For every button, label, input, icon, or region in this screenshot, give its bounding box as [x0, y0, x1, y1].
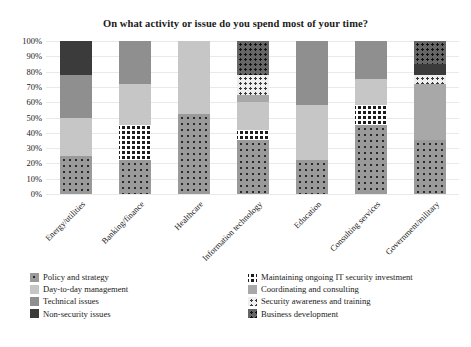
legend-column-right: Maintaining ongoing IT security investme…	[248, 272, 460, 319]
y-axis-tick-label: 20%	[2, 158, 42, 168]
stacked-bar-chart: On what activity or issue do you spend m…	[0, 0, 471, 347]
chart-title: On what activity or issue do you spend m…	[0, 18, 471, 29]
x-axis-label-text: Banking/finance	[99, 199, 146, 246]
legend-label: Day-to-day management	[43, 284, 128, 294]
x-axis-label: Healthcare	[171, 199, 204, 232]
bar-segment-awareness	[414, 75, 446, 84]
legend-item[interactable]: Coordinating and consulting	[248, 284, 460, 294]
x-axis-label-text: Consulting services	[327, 199, 381, 253]
legend-swatch-icon	[30, 273, 39, 282]
bar-segment-technical	[355, 41, 387, 79]
x-axis-label-text: Information technology	[200, 199, 264, 263]
bar-segment-daytoday	[119, 84, 151, 125]
legend-item[interactable]: Maintaining ongoing IT security investme…	[248, 272, 460, 282]
y-axis-tick-label: 70%	[2, 82, 42, 92]
bar-banking-finance	[119, 41, 151, 194]
legend-label: Technical issues	[43, 296, 99, 306]
bar-segment-daytoday	[178, 41, 210, 114]
x-axis-label: Government/military	[383, 199, 441, 257]
legend-swatch-icon	[248, 297, 257, 306]
bar-information-technology	[237, 41, 269, 194]
legend-label: Non-security issues	[43, 309, 111, 319]
bar-healthcare	[178, 41, 210, 194]
legend-item[interactable]: Policy and strategy	[30, 272, 248, 282]
legend-swatch-icon	[30, 309, 39, 318]
bar-segment-policy	[355, 125, 387, 194]
y-axis-tick-label: 50%	[2, 113, 42, 123]
x-axis-label: Education	[291, 199, 322, 230]
bar-segment-coordinating	[237, 95, 269, 103]
bar-segment-awareness	[237, 75, 269, 95]
y-axis-tick-label: 30%	[2, 143, 42, 153]
bar-segment-daytoday	[60, 118, 92, 156]
legend-item[interactable]: Technical issues	[30, 296, 248, 306]
legend-label: Maintaining ongoing IT security investme…	[261, 272, 413, 282]
bar-segment-policy	[178, 114, 210, 194]
bar-segment-technical	[60, 75, 92, 118]
x-axis-label: Energy/utilities	[43, 199, 87, 243]
legend-label: Coordinating and consulting	[261, 284, 359, 294]
legend-label: Security awareness and training	[261, 296, 371, 306]
bar-segment-nonsecurity	[414, 64, 446, 75]
legend-column-left: Policy and strategyDay-to-day management…	[30, 272, 248, 319]
legend-label: Business development	[261, 309, 338, 319]
bar-education	[296, 41, 328, 194]
x-axis-label: Banking/finance	[99, 199, 146, 246]
legend-item[interactable]: Day-to-day management	[30, 284, 248, 294]
x-axis-label-text: Healthcare	[171, 199, 204, 232]
x-axis-label-text: Government/military	[383, 199, 441, 257]
legend-swatch-icon	[248, 273, 257, 282]
legend-item[interactable]: Business development	[248, 309, 460, 319]
y-axis-tick-label: 100%	[2, 36, 42, 46]
bar-segment-coordinating	[414, 84, 446, 141]
bar-segment-policy	[237, 140, 269, 194]
bar-segment-maintaining	[119, 125, 151, 160]
bar-segment-maintaining	[355, 105, 387, 125]
x-axis-label: Information technology	[200, 199, 264, 263]
x-axis-label: Consulting services	[327, 199, 381, 253]
bar-segment-daytoday	[237, 102, 269, 130]
y-axis-tick-label: 60%	[2, 97, 42, 107]
bar-segment-business	[414, 41, 446, 64]
y-axis-tick-label: 0%	[2, 189, 42, 199]
bar-segment-policy	[119, 160, 151, 194]
y-axis-tick-label: 40%	[2, 128, 42, 138]
plot-area: 100%90%80%70%60%50%40%30%20%10%0%	[46, 41, 459, 194]
x-axis-label-text: Energy/utilities	[43, 199, 87, 243]
bar-government-military	[414, 41, 446, 194]
legend-swatch-icon	[30, 285, 39, 294]
legend-item[interactable]: Security awareness and training	[248, 296, 460, 306]
y-axis-tick-label: 80%	[2, 67, 42, 77]
chart-legend: Policy and strategyDay-to-day management…	[30, 272, 460, 319]
bar-segment-daytoday	[296, 105, 328, 160]
bar-energy-utilities	[60, 41, 92, 194]
bar-segment-daytoday	[355, 79, 387, 105]
y-axis-tick-label: 90%	[2, 51, 42, 61]
legend-swatch-icon	[248, 285, 257, 294]
legend-swatch-icon	[30, 297, 39, 306]
bar-segment-technical	[296, 41, 328, 105]
legend-label: Policy and strategy	[43, 272, 109, 282]
legend-swatch-icon	[248, 309, 257, 318]
bar-segment-technical	[119, 41, 151, 84]
gridline	[46, 194, 459, 195]
bar-segment-policy	[296, 160, 328, 194]
bar-segment-nonsecurity	[60, 41, 92, 75]
bar-segment-maintaining	[237, 130, 269, 141]
legend-item[interactable]: Non-security issues	[30, 309, 248, 319]
bar-segment-business	[237, 41, 269, 75]
bar-segment-policy	[414, 140, 446, 194]
y-axis-tick-label: 10%	[2, 174, 42, 184]
bar-segment-policy	[60, 156, 92, 194]
x-axis-label-text: Education	[291, 199, 322, 230]
bar-consulting-services	[355, 41, 387, 194]
